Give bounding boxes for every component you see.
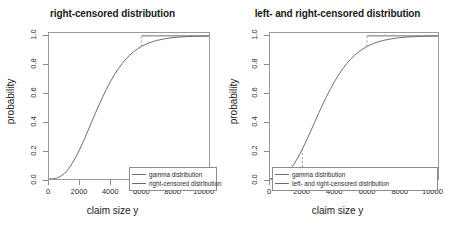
y-axis-tick-label: 0.6 <box>29 85 38 99</box>
legend-item-censored-right: left- and right-censored distribution <box>275 179 434 188</box>
series-gamma-distribution-right <box>270 36 438 179</box>
legend-item-gamma-right: gamma distribution <box>275 170 434 179</box>
y-axis-tick-label: 0.2 <box>29 143 38 157</box>
legend-item-censored-left: right-censored distribution <box>132 179 213 188</box>
legend-key-line-icon <box>132 174 146 175</box>
y-axis-tick-label: 0.2 <box>250 143 259 157</box>
legend-left: gamma distribution right-censored distri… <box>129 167 217 191</box>
plot-svg-left <box>49 33 209 179</box>
y-axis-tick-label: 1.0 <box>29 27 38 41</box>
plot-area-right <box>269 32 439 180</box>
y-axis-tick-label: 0.8 <box>29 56 38 70</box>
x-axis-tick <box>79 180 80 185</box>
legend-label: gamma distribution <box>292 170 345 179</box>
legend-key-line-icon <box>275 174 289 175</box>
y-axis-tick-label: 0.8 <box>250 56 259 70</box>
x-axis-tick <box>269 180 270 185</box>
panel-right-censored: right-censored distribution probability … <box>0 0 225 230</box>
y-axis-tick-label: 0.4 <box>250 114 259 128</box>
y-axis-tick-label: 0.6 <box>250 85 259 99</box>
x-axis-tick <box>48 180 49 185</box>
legend-key-line-icon <box>132 183 146 184</box>
y-axis-tick-label: 0.0 <box>250 173 259 187</box>
y-axis-tick <box>264 180 269 181</box>
legend-label: gamma distribution <box>149 170 202 179</box>
plot-area-left <box>48 32 210 180</box>
y-axis-tick-label: 1.0 <box>250 27 259 41</box>
plot-svg-right <box>270 33 438 179</box>
panel-left-and-right-censored: left- and right-censored distribution pr… <box>225 0 450 230</box>
series-gamma-distribution-left <box>49 36 209 179</box>
legend-right: gamma distribution left- and right-censo… <box>272 167 438 191</box>
legend-item-gamma-left: gamma distribution <box>132 170 213 179</box>
y-axis-tick-label: 0.4 <box>29 114 38 128</box>
legend-label: left- and right-censored distribution <box>292 179 389 188</box>
legend-label: right-censored distribution <box>149 179 221 188</box>
x-axis-tick <box>110 180 111 185</box>
y-axis-tick-label: 0.0 <box>29 173 38 187</box>
legend-key-line-icon <box>275 183 289 184</box>
y-axis-tick <box>43 180 48 181</box>
figure-two-panel-censored-distributions: right-censored distribution probability … <box>0 0 450 230</box>
